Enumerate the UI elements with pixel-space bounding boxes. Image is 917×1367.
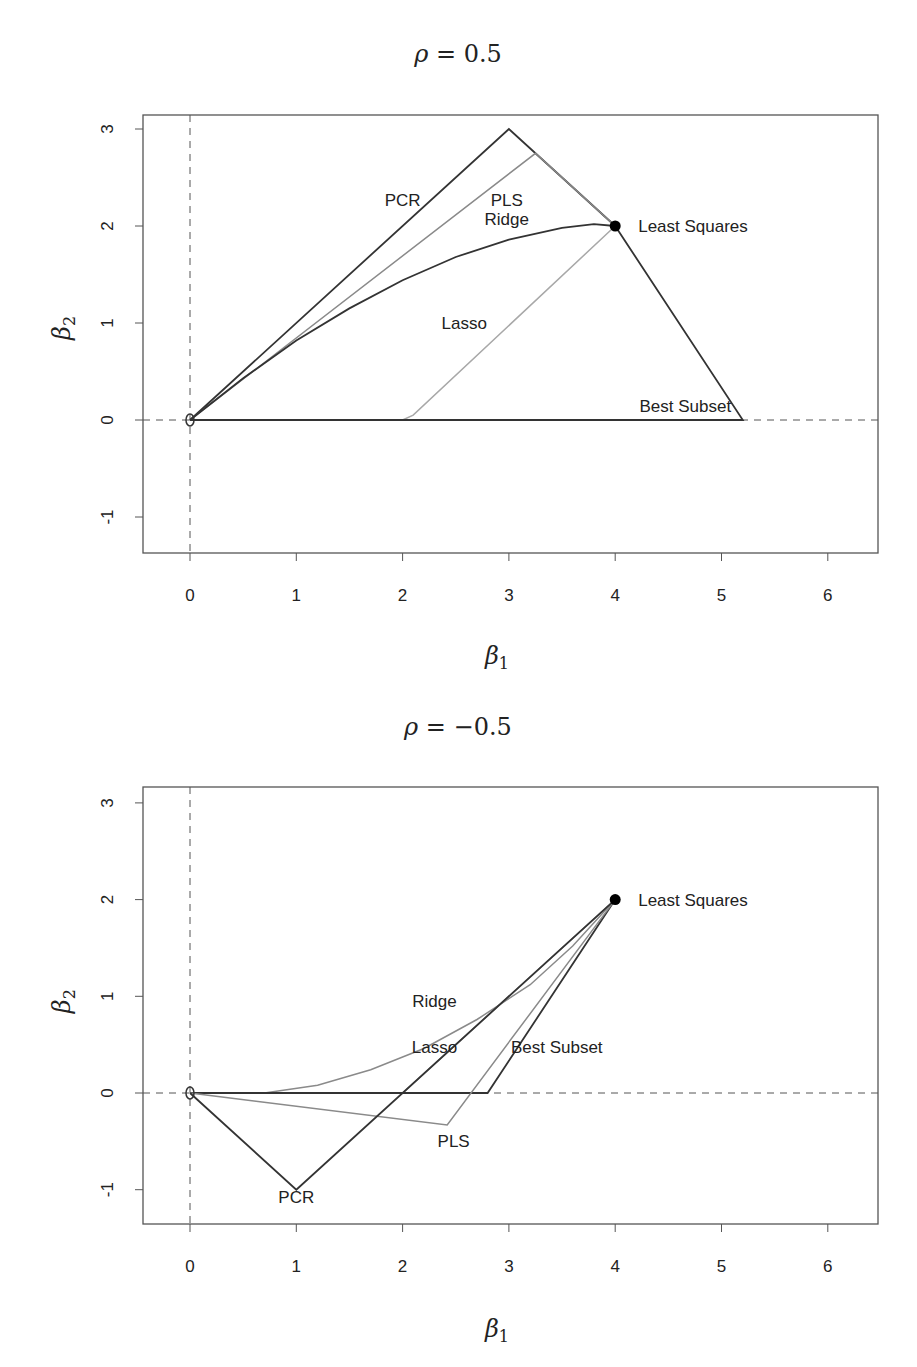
label-pls: PLS: [438, 1132, 470, 1151]
x-tick-label: 0: [185, 1257, 194, 1276]
x-tick-label: 0: [185, 586, 194, 605]
y-tick-label: 0: [98, 1088, 117, 1097]
chart-title: ρ = −0.5: [403, 713, 512, 741]
y-tick-label: 2: [98, 221, 117, 230]
series-pcr: [190, 129, 615, 420]
x-tick-label: 5: [717, 1257, 726, 1276]
plot-frame: [143, 787, 878, 1224]
panel-rho-negative: ρ = −0.5RidgeLassoBest SubsetPLSPCRLeast…: [0, 683, 917, 1367]
y-tick-label: 1: [98, 318, 117, 327]
x-tick-label: 3: [504, 586, 513, 605]
y-tick-label: -1: [98, 509, 117, 524]
chart-rho-minus-0.5: ρ = −0.5RidgeLassoBest SubsetPLSPCRLeast…: [0, 683, 917, 1367]
y-tick-label: -1: [98, 1182, 117, 1197]
series-ridge: [190, 224, 615, 420]
y-tick-label: 2: [98, 895, 117, 904]
series-pls: [190, 900, 615, 1125]
plot-area: [143, 115, 878, 553]
label-best-subset: Best Subset: [511, 1038, 603, 1057]
x-tick-label: 6: [823, 1257, 832, 1276]
x-tick-label: 6: [823, 586, 832, 605]
x-axis-label: β1: [484, 642, 509, 673]
x-tick-label: 4: [610, 586, 619, 605]
panel-rho-positive: ρ = 0.5PCRPLSRidgeLassoBest SubsetLeast …: [0, 0, 917, 683]
chart-title: ρ = 0.5: [413, 40, 502, 68]
least-squares-label: Least Squares: [638, 891, 748, 910]
x-tick-label: 2: [398, 586, 407, 605]
x-tick-label: 1: [292, 1257, 301, 1276]
label-best-subset: Best Subset: [640, 397, 732, 416]
plot-frame: [143, 115, 878, 553]
label-ridge: Ridge: [485, 210, 529, 229]
x-tick-label: 5: [717, 586, 726, 605]
label-pcr: PCR: [278, 1188, 314, 1207]
x-tick-label: 1: [292, 586, 301, 605]
label-pcr: PCR: [385, 191, 421, 210]
y-tick-label: 3: [98, 124, 117, 133]
y-axis-label: β2: [48, 989, 79, 1014]
y-tick-label: 1: [98, 992, 117, 1001]
y-axis-label: β2: [48, 316, 79, 341]
least-squares-point: [610, 894, 621, 905]
x-axis-label: β1: [484, 1315, 509, 1346]
least-squares-label: Least Squares: [638, 217, 748, 236]
series-best-subset: [190, 900, 615, 1093]
label-pls: PLS: [491, 191, 523, 210]
least-squares-point: [610, 221, 621, 232]
y-tick-label: 3: [98, 798, 117, 807]
x-tick-label: 3: [504, 1257, 513, 1276]
plot-area: [143, 787, 878, 1224]
label-ridge: Ridge: [412, 992, 456, 1011]
chart-rho-0.5: ρ = 0.5PCRPLSRidgeLassoBest SubsetLeast …: [0, 0, 917, 683]
label-lasso: Lasso: [412, 1038, 457, 1057]
label-lasso: Lasso: [442, 314, 487, 333]
x-tick-label: 2: [398, 1257, 407, 1276]
y-tick-label: 0: [98, 415, 117, 424]
x-tick-label: 4: [610, 1257, 619, 1276]
